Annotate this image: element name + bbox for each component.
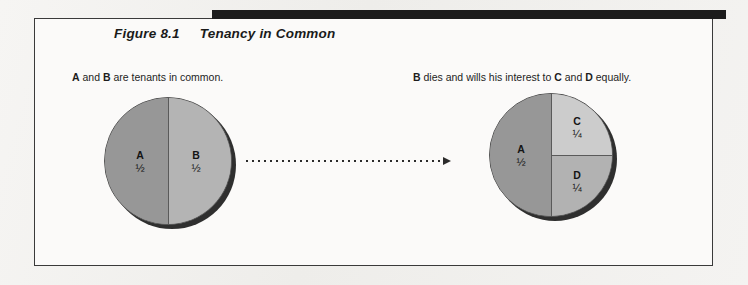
pie-after-label-d-share: ¼ <box>559 182 595 196</box>
pie-before-label-b-share: ½ <box>176 162 216 176</box>
pie-before-label-b-owner: B <box>176 149 216 162</box>
pie-after-label-a: A ½ <box>501 143 541 170</box>
pie-after-label-c-share: ¼ <box>559 128 595 142</box>
figure-title: Figure 8.1Tenancy in Common <box>114 26 335 41</box>
dotted-flow-arrow <box>246 157 458 166</box>
caption-right-party-c: C <box>554 71 562 83</box>
caption-right-party-b: B <box>413 71 421 83</box>
caption-left-tail: are tenants in common. <box>111 71 224 83</box>
dotted-flow-arrow-head <box>443 157 451 165</box>
pie-after-divider-horizontal <box>551 155 612 156</box>
caption-left-party-b: B <box>103 71 111 83</box>
pie-before-label-a-owner: A <box>120 149 160 162</box>
caption-left-party-a: A <box>72 71 80 83</box>
pie-chart-after: A ½ C ¼ D ¼ <box>489 93 613 217</box>
pie-after-label-d-owner: D <box>559 169 595 182</box>
caption-right-panel: B dies and wills his interest to C and D… <box>413 71 631 83</box>
pie-before-label-a-share: ½ <box>120 162 160 176</box>
title-rule-bar <box>212 10 726 19</box>
caption-right-mid2: and <box>562 71 585 83</box>
caption-right-mid1: dies and wills his interest to <box>421 71 555 83</box>
pie-after-label-c: C ¼ <box>559 115 595 142</box>
caption-right-tail: equally. <box>593 71 631 83</box>
pie-before-label-a: A ½ <box>120 149 160 176</box>
dotted-flow-arrow-line <box>246 160 444 162</box>
pie-after-label-d: D ¼ <box>559 169 595 196</box>
pie-after-label-a-owner: A <box>501 143 541 156</box>
caption-left-mid: and <box>80 71 103 83</box>
pie-before-label-b: B ½ <box>176 149 216 176</box>
caption-left-panel: A and B are tenants in common. <box>72 71 223 83</box>
figure-number: Figure 8.1 <box>114 26 180 41</box>
figure-title-text: Tenancy in Common <box>200 26 336 41</box>
pie-after-label-a-share: ½ <box>501 156 541 170</box>
pie-chart-before: A ½ B ½ <box>104 97 232 225</box>
pie-after-label-c-owner: C <box>559 115 595 128</box>
caption-right-party-d: D <box>585 71 593 83</box>
pie-before-divider <box>168 98 169 224</box>
